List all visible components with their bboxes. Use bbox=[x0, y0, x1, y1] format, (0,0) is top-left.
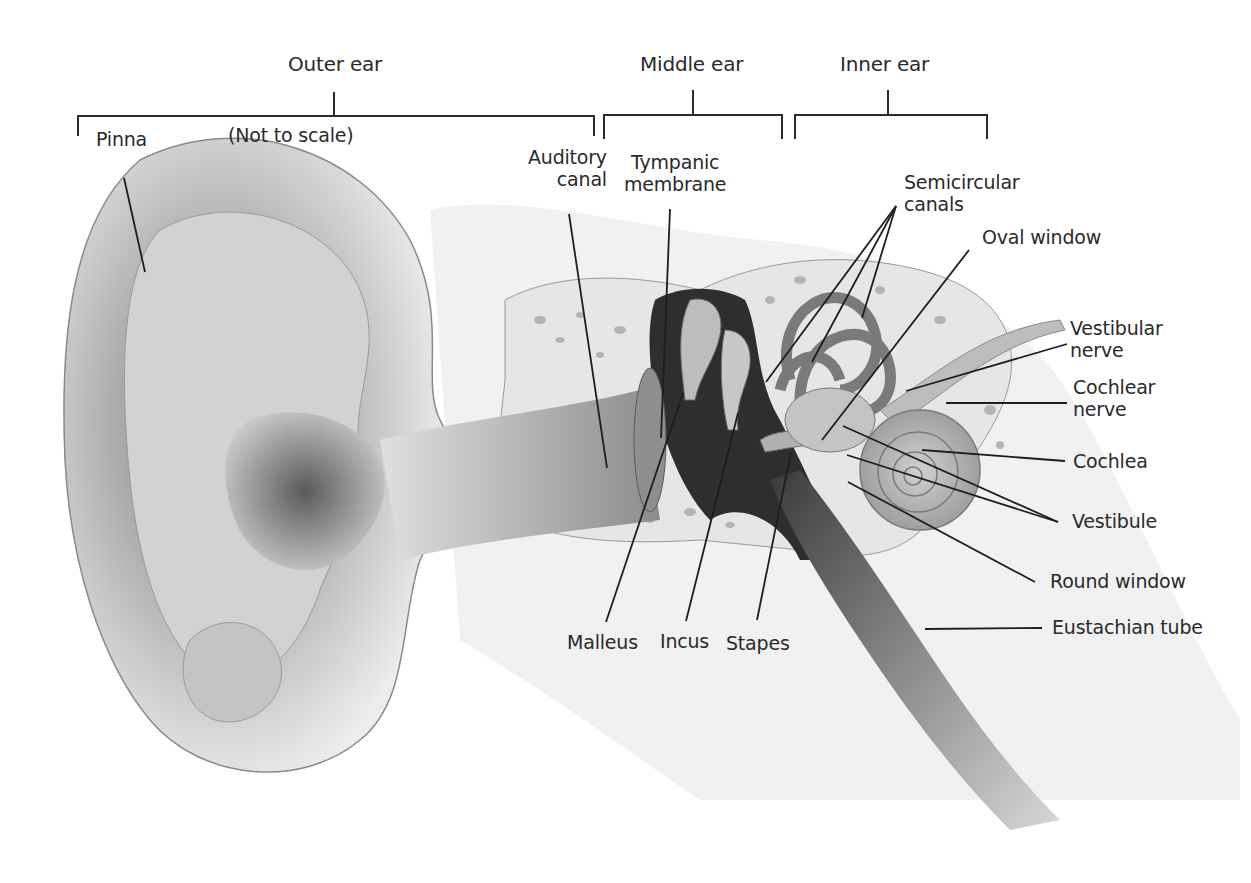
label-cochlear-nerve: Cochlear nerve bbox=[1073, 376, 1155, 420]
region-label-middle-ear: Middle ear bbox=[640, 53, 743, 75]
eustachian-leader bbox=[925, 628, 1042, 629]
label-incus: Incus bbox=[660, 630, 709, 652]
label-oval-window: Oval window bbox=[982, 226, 1101, 248]
label-tympanic-membrane: Tympanic membrane bbox=[624, 151, 726, 195]
region-label-outer-ear: Outer ear bbox=[288, 53, 382, 75]
label-cochlea: Cochlea bbox=[1073, 450, 1148, 472]
label-vestibular-nerve: Vestibular nerve bbox=[1070, 317, 1163, 361]
region-brackets bbox=[78, 90, 987, 139]
label-stapes: Stapes bbox=[726, 632, 790, 654]
inner-ear-bracket bbox=[795, 115, 987, 139]
label-eustachian-tube: Eustachian tube bbox=[1052, 616, 1203, 638]
ear-illustration bbox=[0, 0, 1251, 883]
earlobe bbox=[183, 623, 281, 722]
label-auditory-canal: Auditory canal bbox=[528, 146, 607, 190]
label-round-window: Round window bbox=[1050, 570, 1186, 592]
middle-ear-bracket bbox=[604, 115, 782, 139]
label-pinna: Pinna bbox=[96, 128, 147, 150]
label-semicircular-canals: Semicircular canals bbox=[904, 171, 1019, 215]
label-not-to-scale: (Not to scale) bbox=[228, 124, 353, 146]
label-malleus: Malleus bbox=[567, 631, 638, 653]
vestibule-shape bbox=[785, 388, 875, 452]
label-vestibule: Vestibule bbox=[1072, 510, 1157, 532]
region-label-inner-ear: Inner ear bbox=[840, 53, 929, 75]
